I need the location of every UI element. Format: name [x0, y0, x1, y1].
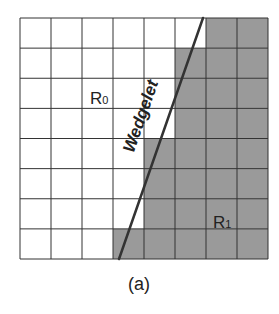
grid-cell	[82, 169, 113, 199]
grid-cell	[82, 229, 113, 259]
figure-caption: (a)	[128, 274, 150, 294]
grid-cell	[144, 48, 175, 78]
region-r0-subscript: 0	[102, 94, 108, 106]
grid-cell	[113, 18, 144, 48]
grid-cell	[51, 229, 82, 259]
grid-cell	[113, 169, 144, 199]
grid-cell-shaded	[237, 229, 268, 259]
grid-cell-shaded	[237, 78, 268, 108]
grid-cell	[20, 108, 51, 138]
grid-cell-shaded	[237, 48, 268, 78]
wedgelet-partition-diagram: Wedgelet R0 R1 (a)	[0, 0, 279, 314]
grid-cell-shaded	[175, 169, 206, 199]
grid-cell-shaded	[175, 139, 206, 169]
grid-cell-shaded	[237, 108, 268, 138]
grid-cell	[20, 169, 51, 199]
grid-cell-shaded	[206, 18, 237, 48]
grid-cell-shaded	[237, 199, 268, 229]
grid-cell-shaded	[206, 78, 237, 108]
grid-cell	[82, 18, 113, 48]
grid-cell	[20, 229, 51, 259]
grid-cell	[82, 139, 113, 169]
grid-cell	[20, 48, 51, 78]
grid-cell-shaded	[206, 169, 237, 199]
grid-cell-shaded	[237, 139, 268, 169]
grid-cell-shaded	[175, 108, 206, 138]
grid-cell-shaded	[144, 199, 175, 229]
grid-cell-shaded	[175, 199, 206, 229]
grid-cell	[51, 139, 82, 169]
grid-cell-shaded	[206, 48, 237, 78]
grid-cell-shaded	[206, 108, 237, 138]
region-r0-name: R	[90, 89, 102, 108]
grid-cell	[82, 108, 113, 138]
grid-cell	[20, 199, 51, 229]
grid-cell-shaded	[237, 169, 268, 199]
region-r1-name: R	[213, 213, 225, 232]
grid-cell-shaded	[206, 139, 237, 169]
grid-cell	[51, 48, 82, 78]
grid-cell	[20, 139, 51, 169]
grid-cell	[20, 18, 51, 48]
region-r1-subscript: 1	[225, 218, 231, 230]
grid-cell	[51, 78, 82, 108]
grid-cell	[144, 18, 175, 48]
grid-cell-shaded	[237, 18, 268, 48]
grid-cell	[51, 18, 82, 48]
grid-cell-shaded	[144, 229, 175, 259]
grid-cell-shaded	[206, 229, 237, 259]
grid-cell	[51, 169, 82, 199]
grid-cell	[51, 199, 82, 229]
grid-cell	[113, 48, 144, 78]
grid-cell	[51, 108, 82, 138]
grid-cell	[82, 199, 113, 229]
grid-cell	[20, 78, 51, 108]
grid-cell-shaded	[175, 229, 206, 259]
grid-cell	[82, 48, 113, 78]
